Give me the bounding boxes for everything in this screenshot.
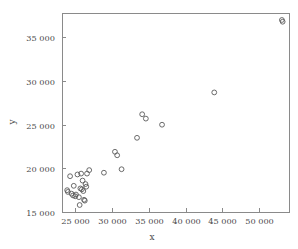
x-tick-label: 25 000 (61, 216, 90, 226)
y-tick-label: 25 000 (26, 121, 55, 131)
x-tick-label: 45 000 (208, 216, 237, 226)
y-tick-label: 30 000 (26, 77, 55, 87)
x-axis-title: x (149, 232, 154, 242)
data-point (115, 153, 120, 158)
data-point (143, 116, 148, 121)
x-tick-label: 50 000 (245, 216, 274, 226)
scatter-plot-figure: 25 00030 00035 00040 00045 00050 000 15 … (0, 0, 298, 249)
data-point (135, 135, 140, 140)
data-point (71, 183, 76, 188)
data-point (113, 149, 118, 154)
data-point (102, 170, 107, 175)
plot-frame (63, 14, 290, 213)
x-tick-label: 30 000 (98, 216, 127, 226)
data-point (140, 112, 145, 117)
data-point (212, 90, 217, 95)
x-axis-tick-labels: 25 00030 00035 00040 00045 00050 000 (61, 216, 274, 226)
y-tick-label: 35 000 (26, 33, 55, 43)
data-point (77, 203, 82, 208)
data-point-group (65, 18, 285, 208)
plot-canvas: 25 00030 00035 00040 00045 00050 000 15 … (0, 0, 298, 249)
data-point (68, 174, 73, 179)
x-tick-label: 35 000 (135, 216, 164, 226)
y-axis-title: y (7, 119, 17, 126)
x-tick-label: 40 000 (172, 216, 201, 226)
y-tick-label: 20 000 (26, 164, 55, 174)
x-axis-tick-marks (76, 208, 260, 212)
y-tick-label: 15 000 (26, 208, 55, 218)
data-point (119, 167, 124, 172)
y-axis-tick-labels: 15 00020 00025 00030 00035 000 (26, 33, 55, 218)
data-point (160, 122, 165, 127)
